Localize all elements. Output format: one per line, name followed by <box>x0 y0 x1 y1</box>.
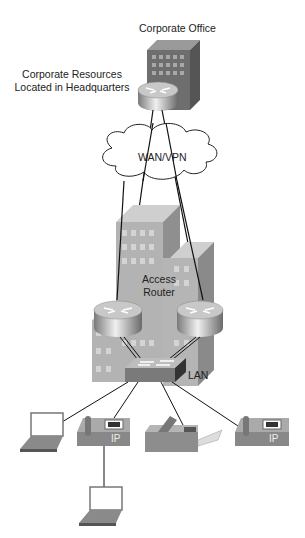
ip-phone-icon: IP <box>235 416 289 446</box>
corporate-resources-line1: Corporate Resources <box>12 68 132 81</box>
lan-label: LAN <box>188 369 208 382</box>
lan-switch-icon <box>125 358 186 382</box>
hq-router-icon <box>138 82 178 111</box>
network-diagram: IP IP Corporate Office Corporate Resourc… <box>0 0 305 538</box>
access-router-right-icon <box>177 301 223 337</box>
access-router-line1: Access <box>134 273 184 286</box>
ip-label: IP <box>111 433 121 444</box>
wan-vpn-label: WAN/VPN <box>138 151 187 164</box>
corporate-resources-line2: Located in Headquarters <box>12 81 132 94</box>
corporate-office-label: Corporate Office <box>139 22 216 35</box>
access-router-label: Access Router <box>134 273 184 299</box>
access-router-line2: Router <box>134 286 184 299</box>
fax-machine-icon <box>145 416 222 452</box>
access-router-left-icon <box>94 301 142 337</box>
ip-label: IP <box>269 433 279 444</box>
laptop-icon <box>79 487 122 526</box>
laptop-icon <box>20 413 63 452</box>
corporate-resources-label: Corporate Resources Located in Headquart… <box>12 68 132 94</box>
ip-phone-icon: IP <box>77 416 130 446</box>
